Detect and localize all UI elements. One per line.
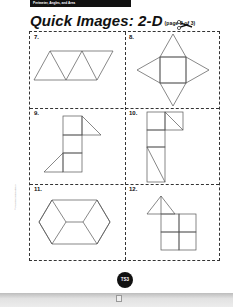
quick-image-card-8: 8. (125, 32, 221, 108)
quick-image-card-11: 11. (30, 184, 125, 262)
figure-triangles-strip (30, 32, 125, 108)
figure-squares-with-triangle (125, 184, 221, 262)
figure-stacked-squares (30, 108, 125, 184)
page-number-badge: TS3 (117, 272, 133, 288)
section-label: Perimeter, Angles, and Area (33, 1, 75, 5)
page-title: Quick Images: 2-D(page 2 of 3) (30, 12, 195, 29)
quick-image-card-12: 12. (125, 184, 221, 262)
quick-image-card-10: 10. (125, 108, 221, 184)
copyright-note: © Pearson Education 3 (14, 184, 17, 210)
page-number: TS3 (121, 277, 129, 282)
scissors-icon (176, 19, 194, 31)
title-main: Quick Images: 2-D (30, 12, 163, 29)
page-marker-icon (116, 295, 122, 302)
quick-image-card-7: 7. (30, 32, 125, 108)
figure-square-star-net (125, 32, 221, 108)
figure-square-column (125, 108, 221, 184)
cutout-sheet: 7. 8. 9. (29, 31, 220, 261)
section-header-bar: Perimeter, Angles, and Area (30, 0, 131, 7)
viewer-bottom-bar (0, 293, 233, 307)
quick-image-card-9: 9. (30, 108, 125, 184)
figure-hexagon-rhombuses (30, 184, 125, 262)
